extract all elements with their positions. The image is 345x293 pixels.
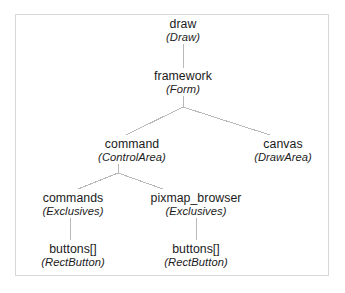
node-class-name: (Form) (154, 83, 212, 95)
node-object-name: command (98, 138, 166, 151)
node-class-name: (Exclusives) (151, 205, 242, 217)
object-hierarchy-diagram: draw(Draw)framework(Form)command(Control… (0, 0, 345, 293)
node-class-name: (Exclusives) (43, 205, 104, 217)
node-object-name: buttons[] (164, 243, 227, 256)
node-commands: commands(Exclusives) (43, 192, 104, 217)
node-class-name: (RectButton) (41, 256, 104, 268)
node-draw: draw(Draw) (166, 18, 200, 43)
node-command: command(ControlArea) (98, 138, 166, 163)
node-class-name: (RectButton) (164, 256, 227, 268)
edge-command-commands (78, 173, 118, 189)
node-canvas: canvas(DrawArea) (254, 138, 312, 163)
node-object-name: buttons[] (41, 243, 104, 256)
edge-framework-canvas (183, 107, 270, 135)
node-object-name: pixmap_browser (151, 192, 242, 205)
node-class-name: (Draw) (166, 31, 200, 43)
node-object-name: canvas (254, 138, 312, 151)
node-framework: framework(Form) (154, 70, 212, 95)
node-buttons_left: buttons[](RectButton) (41, 243, 104, 268)
node-object-name: commands (43, 192, 104, 205)
node-pixmap_browser: pixmap_browser(Exclusives) (151, 192, 242, 217)
node-class-name: (ControlArea) (98, 151, 166, 163)
node-object-name: framework (154, 70, 212, 83)
edge-framework-command (126, 107, 183, 135)
edge-command-pixmap_browser (118, 173, 163, 189)
node-class-name: (DrawArea) (254, 151, 312, 163)
node-buttons_right: buttons[](RectButton) (164, 243, 227, 268)
node-object-name: draw (166, 18, 200, 31)
